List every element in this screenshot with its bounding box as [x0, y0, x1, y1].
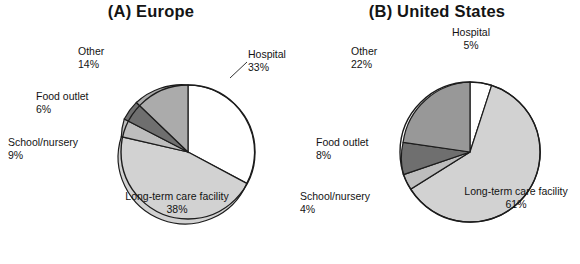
label-us-other-name: Other — [351, 45, 377, 57]
label-us-school-nursery-name: School/nursery — [300, 190, 370, 202]
label-eu-ltcf-pct: 38% — [112, 203, 242, 216]
label-eu-food-outlet-name: Food outlet — [36, 90, 89, 102]
label-us-hospital-pct: 5% — [433, 39, 509, 52]
label-us-hospital: Hospital 5% — [433, 26, 509, 51]
label-eu-other-pct: 14% — [78, 58, 104, 71]
label-eu-hospital-pct: 33% — [248, 61, 286, 74]
leader-lines — [230, 62, 247, 78]
label-us-food-outlet-name: Food outlet — [316, 136, 369, 148]
label-eu-school-nursery-pct: 9% — [8, 149, 78, 162]
label-eu-other: Other 14% — [78, 45, 104, 70]
label-eu-hospital-name: Hospital — [248, 48, 286, 60]
label-us-ltcf-pct: 61% — [452, 198, 580, 211]
label-us-food-outlet: Food outlet 8% — [316, 136, 369, 161]
label-us-other-pct: 22% — [351, 58, 377, 71]
label-eu-ltcf-name: Long-term care facility — [125, 190, 228, 202]
label-us-long-term-care-facility: Long-term care facility 61% — [452, 185, 580, 210]
label-us-ltcf-name: Long-term care facility — [464, 185, 567, 197]
label-us-school-nursery: School/nursery 4% — [300, 190, 370, 215]
label-eu-school-nursery: School/nursery 9% — [8, 136, 78, 161]
slice-us-other[interactable] — [403, 82, 470, 152]
label-us-hospital-name: Hospital — [452, 26, 490, 38]
leader-eu-hospital — [230, 62, 247, 78]
label-eu-other-name: Other — [78, 45, 104, 57]
label-us-school-nursery-pct: 4% — [300, 203, 370, 216]
label-us-other: Other 22% — [351, 45, 377, 70]
label-eu-hospital: Hospital 33% — [248, 48, 286, 73]
label-us-food-outlet-pct: 8% — [316, 149, 369, 162]
label-eu-long-term-care-facility: Long-term care facility 38% — [112, 190, 242, 215]
label-eu-school-nursery-name: School/nursery — [8, 136, 78, 148]
label-eu-food-outlet-pct: 6% — [36, 103, 89, 116]
label-eu-food-outlet: Food outlet 6% — [36, 90, 89, 115]
